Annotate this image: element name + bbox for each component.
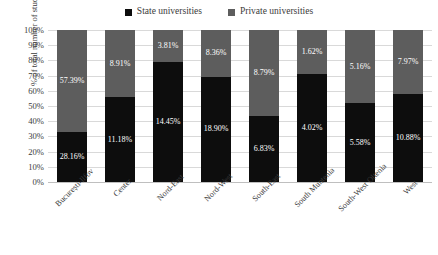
y-axis-tick-label: 90% [28,40,44,50]
x-axis-label-slot: West [384,183,432,255]
bar-segment-private[interactable]: 8.91% [105,30,135,97]
y-axis-tick-label: 60% [28,86,44,96]
legend-entry-private-universities: Private universities [228,7,313,17]
x-axis-label-slot: South-East [240,183,288,255]
x-axis-label-slot: Nord-West [192,183,240,255]
stacked-bar[interactable]: 8.91%11.18% [105,30,135,182]
bar-segment-value-label: 5.16% [350,63,371,71]
bar-slot: 8.36%18.90% [192,30,240,182]
stacked-bar[interactable]: 1.62%4.02% [297,30,327,182]
stacked-bar[interactable]: 3.81%14.45% [153,30,183,182]
legend-label-state: State universities [137,7,202,17]
bar-segment-state[interactable]: 5.58% [345,103,375,182]
legend-entry-state-universities: State universities [125,7,202,17]
bar-segment-value-label: 5.58% [350,139,371,147]
bar-segment-private[interactable]: 8.36% [201,30,231,77]
bar-segment-state[interactable]: 4.02% [297,74,327,182]
bar-slot: 5.16%5.58% [336,30,384,182]
bar-segment-value-label: 18.90% [204,125,229,133]
legend-label-private: Private universities [240,7,313,17]
bar-segment-private[interactable]: 3.81% [153,30,183,62]
x-axis-label-slot: Center [96,183,144,255]
bar-segment-private[interactable]: 5.16% [345,30,375,103]
bar-segment-value-label: 6.83% [254,145,275,153]
bar-slot: 57.39%28.16% [48,30,96,182]
bar-slot: 8.91%11.18% [96,30,144,182]
bar-segment-private[interactable]: 8.79% [249,30,279,116]
bar-segment-value-label: 8.91% [110,60,131,68]
y-axis-tick-label: 10% [28,162,44,172]
bar-segment-value-label: 7.97% [398,58,419,66]
bar-segment-state[interactable]: 10.88% [393,94,423,182]
bar-segment-state[interactable]: 18.90% [201,77,231,182]
chart-legend: State universities Private universities [0,4,438,20]
stacked-bar[interactable]: 5.16%5.58% [345,30,375,182]
stacked-bar[interactable]: 8.36%18.90% [201,30,231,182]
bar-slot: 7.97%10.88% [384,30,432,182]
x-axis-label-slot: South-West Oltenia [336,183,384,255]
y-axis-tick-label: 100% [24,25,44,35]
stacked-bar[interactable]: 8.79%6.83% [249,30,279,182]
bar-segment-value-label: 10.88% [396,134,421,142]
y-axis-tick-label: 40% [28,116,44,126]
bar-segment-value-label: 8.36% [206,49,227,57]
y-axis-tick-label: 30% [28,131,44,141]
stacked-bar-chart: State universities Private universities … [0,0,438,255]
bar-segment-value-label: 28.16% [60,153,85,161]
x-axis-label-slot: Nord-East [144,183,192,255]
bar-segment-value-label: 3.81% [158,42,179,50]
bar-segment-private[interactable]: 7.97% [393,30,423,94]
y-axis-tick-label: 50% [28,101,44,111]
x-axis-label-slot: South Muntenia [288,183,336,255]
bar-segment-state[interactable]: 11.18% [105,97,135,182]
bar-segment-private[interactable]: 57.39% [57,30,87,132]
bar-slot: 8.79%6.83% [240,30,288,182]
y-axis-tick-label: 20% [28,147,44,157]
y-axis-tick-label: 80% [28,55,44,65]
stacked-bar[interactable]: 7.97%10.88% [393,30,423,182]
y-axis-tick-label: 70% [28,71,44,81]
y-axis-tick-label: 0% [33,177,44,187]
bar-series-container: 57.39%28.16%8.91%11.18%3.81%14.45%8.36%1… [48,30,432,182]
bar-segment-state[interactable]: 14.45% [153,62,183,182]
bar-slot: 3.81%14.45% [144,30,192,182]
x-axis-labels: București-IlfovCenterNord-EastNord-WestS… [48,183,432,255]
bar-slot: 1.62%4.02% [288,30,336,182]
bar-segment-value-label: 57.39% [60,77,85,85]
bar-segment-value-label: 1.62% [302,48,323,56]
bar-segment-value-label: 4.02% [302,124,323,132]
plot-area: 100%90%80%70%60%50%40%30%20%10%0% 57.39%… [48,30,432,182]
x-axis-label-slot: București-Ilfov [48,183,96,255]
bar-segment-value-label: 8.79% [254,69,275,77]
bar-segment-value-label: 11.18% [108,136,132,144]
bar-segment-value-label: 14.45% [156,118,181,126]
stacked-bar[interactable]: 57.39%28.16% [57,30,87,182]
bar-segment-private[interactable]: 1.62% [297,30,327,74]
legend-swatch-state-icon [125,9,132,16]
legend-swatch-private-icon [228,9,235,16]
